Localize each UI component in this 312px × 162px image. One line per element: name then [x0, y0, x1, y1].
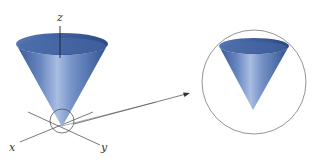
callout-arrow	[74, 93, 190, 125]
cone-rim-highlight	[18, 38, 106, 54]
cone-magnified	[219, 38, 289, 110]
cone-diagram: z x y	[0, 0, 312, 162]
axes	[20, 102, 156, 145]
y-axis-label: y	[100, 141, 108, 154]
magnified-cone-body	[219, 46, 289, 110]
cone-body	[16, 44, 108, 127]
arrowhead-icon	[183, 93, 190, 98]
z-axis-label: z	[56, 11, 63, 24]
diagram-canvas: z x y	[0, 0, 312, 162]
magnified-cone-rim-inner	[221, 42, 287, 54]
x-axis-label: x	[9, 141, 16, 154]
